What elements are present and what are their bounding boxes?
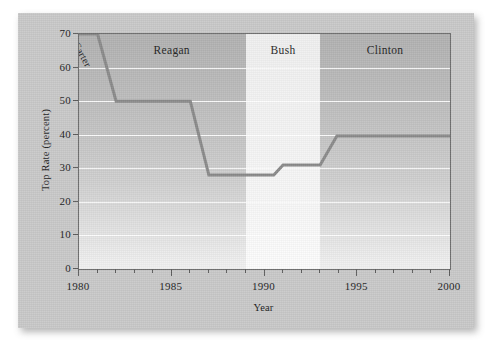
x-axis-title: Year	[78, 302, 449, 313]
x-tick-mark-2000	[449, 269, 450, 276]
x-tick-mark-1999	[430, 269, 431, 273]
era-label-bush: Bush	[271, 44, 296, 56]
y-tick-mark-70	[73, 33, 78, 34]
x-tick-mark-1992	[301, 269, 302, 273]
x-tick-label-1985: 1985	[159, 280, 182, 292]
y-tick-label-10: 10	[60, 228, 71, 240]
x-tick-mark-1993	[319, 269, 320, 273]
x-tick-label-1990: 1990	[252, 280, 275, 292]
x-tick-mark-1988	[226, 269, 227, 273]
x-tick-mark-1998	[412, 269, 413, 273]
x-tick-mark-1989	[245, 269, 246, 273]
x-tick-mark-1990	[264, 269, 265, 276]
chart-card: ReaganBushClinton Carter 010203040506070…	[18, 13, 474, 328]
x-tick-mark-1991	[282, 269, 283, 273]
x-tick-mark-1982	[115, 269, 116, 273]
y-tick-label-20: 20	[60, 195, 71, 207]
x-tick-mark-1997	[393, 269, 394, 273]
y-tick-label-0: 0	[65, 262, 71, 274]
x-tick-mark-1980	[78, 269, 79, 276]
x-tick-mark-1986	[189, 269, 190, 273]
y-tick-label-60: 60	[60, 61, 71, 73]
x-tick-mark-1994	[338, 269, 339, 273]
y-tick-mark-40	[73, 134, 78, 135]
x-tick-mark-1984	[152, 269, 153, 273]
era-label-reagan: Reagan	[154, 44, 190, 56]
y-tick-mark-10	[73, 234, 78, 235]
chart-screenshot: ReaganBushClinton Carter 010203040506070…	[0, 0, 492, 344]
x-tick-label-1995: 1995	[345, 280, 368, 292]
y-tick-label-50: 50	[60, 94, 71, 106]
y-tick-label-40: 40	[60, 128, 71, 140]
x-tick-label-2000: 2000	[438, 280, 461, 292]
y-tick-mark-50	[73, 100, 78, 101]
x-tick-mark-1996	[375, 269, 376, 273]
y-tick-label-30: 30	[60, 161, 71, 173]
y-tick-label-70: 70	[60, 27, 71, 39]
y-axis-title: Top Rate (percent)	[40, 109, 51, 191]
x-tick-mark-1981	[97, 269, 98, 273]
x-tick-mark-1987	[208, 269, 209, 273]
y-tick-mark-30	[73, 167, 78, 168]
x-tick-label-1980: 1980	[67, 280, 90, 292]
x-tick-mark-1985	[171, 269, 172, 276]
top-rate-line	[79, 34, 450, 269]
x-tick-mark-1983	[134, 269, 135, 273]
y-tick-mark-60	[73, 67, 78, 68]
plot-area: ReaganBushClinton Carter	[78, 33, 451, 270]
era-label-clinton: Clinton	[367, 44, 404, 56]
y-tick-mark-20	[73, 201, 78, 202]
x-tick-mark-1995	[356, 269, 357, 276]
